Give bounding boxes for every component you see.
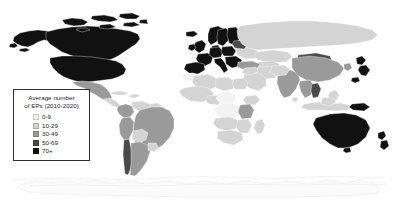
legend-swatch-10-29 bbox=[33, 123, 39, 129]
country-vietnam bbox=[311, 83, 321, 98]
country-argentina bbox=[130, 142, 150, 176]
legend-item-10-29: 10-29 bbox=[33, 122, 86, 130]
country-mozambique-zimbabwe bbox=[236, 119, 252, 133]
country-kazakhstan bbox=[254, 50, 292, 63]
legend-swatch-0-9 bbox=[33, 114, 39, 120]
legend-label-50-69: 50-69 bbox=[42, 139, 58, 147]
legend-items: 0-9 10-29 30-49 50-69 70+ bbox=[17, 113, 86, 155]
oceania-group bbox=[313, 113, 389, 153]
country-antarctica bbox=[18, 180, 380, 197]
country-poland bbox=[221, 46, 236, 56]
country-south-africa bbox=[217, 130, 243, 145]
legend-swatch-30-49 bbox=[33, 131, 39, 137]
legend-swatch-70-plus bbox=[33, 148, 39, 154]
country-libya bbox=[216, 77, 234, 91]
country-egypt bbox=[232, 78, 248, 90]
legend-item-70-plus: 70+ bbox=[33, 147, 86, 155]
legend-title: Average number of EPs (2010-2020) bbox=[17, 94, 86, 110]
legend-title-line-1: Average number bbox=[17, 94, 86, 102]
country-united-kingdom bbox=[194, 40, 206, 53]
legend-item-50-69: 50-69 bbox=[33, 139, 86, 147]
legend-item-0-9: 0-9 bbox=[33, 113, 86, 121]
legend-label-30-49: 30-49 bbox=[42, 130, 58, 138]
map-legend: Average number of EPs (2010-2020) 0-9 10… bbox=[13, 89, 90, 161]
country-iceland bbox=[186, 31, 198, 37]
legend-label-10-29: 10-29 bbox=[42, 122, 58, 130]
country-new-zealand bbox=[378, 131, 389, 150]
country-hispaniola bbox=[129, 94, 140, 98]
legend-title-line-2: of EPs (2010-2020) bbox=[17, 102, 86, 110]
country-papua-new-guinea bbox=[349, 103, 370, 111]
country-angola-zambia bbox=[213, 117, 238, 131]
country-central-america bbox=[104, 98, 120, 108]
country-australia bbox=[313, 113, 370, 153]
antarctica-group bbox=[14, 176, 386, 197]
asia-group bbox=[270, 56, 370, 111]
country-peru bbox=[119, 117, 134, 140]
south-america-group bbox=[117, 101, 174, 176]
country-kenya-tanzania bbox=[238, 104, 254, 119]
country-sri-lanka bbox=[292, 97, 298, 102]
legend-swatch-50-69 bbox=[33, 140, 39, 146]
ocean-contour-south bbox=[14, 176, 384, 180]
legend-label-70-plus: 70+ bbox=[42, 147, 53, 155]
country-russia bbox=[237, 21, 378, 50]
country-spain-portugal bbox=[184, 62, 205, 74]
country-greenland bbox=[147, 12, 182, 45]
world-map-figure: Average number of EPs (2010-2020) 0-9 10… bbox=[0, 0, 396, 207]
country-china bbox=[292, 56, 344, 82]
legend-label-0-9: 0-9 bbox=[42, 113, 51, 121]
country-japan bbox=[351, 56, 370, 83]
country-cuba bbox=[111, 91, 128, 95]
country-germany bbox=[209, 47, 223, 58]
country-madagascar bbox=[254, 119, 265, 134]
country-colombia bbox=[117, 104, 134, 118]
legend-item-30-49: 30-49 bbox=[33, 130, 86, 138]
country-korea bbox=[344, 63, 352, 71]
country-united-states bbox=[50, 56, 126, 82]
country-ethiopia bbox=[243, 95, 260, 105]
